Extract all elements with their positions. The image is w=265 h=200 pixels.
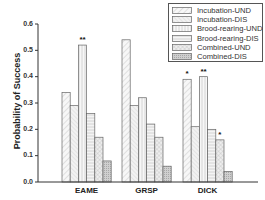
legend-swatch (172, 25, 192, 32)
bar-eame-combined-und (95, 137, 103, 182)
legend-item: Brood-rearing-DIS (172, 34, 259, 43)
y-tick-label: 0.3 (11, 99, 33, 106)
y-tick-label: 0.5 (11, 46, 33, 53)
bar-dick-incubation-und (183, 79, 191, 182)
bar-dick-brood-rearing-und (199, 77, 207, 182)
bar-eame-brood-rearing-und (78, 45, 86, 182)
y-tick-label: 0.6 (11, 20, 33, 27)
bar-grsp-combined-und (155, 137, 163, 182)
x-category-label: DICK (183, 186, 233, 195)
legend-item: Combined-DIS (172, 52, 259, 61)
bar-grsp-incubation-und (122, 40, 130, 182)
legend-label: Brood-rearing-DIS (197, 34, 259, 43)
significance-marker: ** (198, 67, 210, 76)
bar-dick-combined-dis (224, 171, 232, 182)
legend-swatch (172, 16, 192, 23)
bar-eame-combined-dis (103, 161, 111, 182)
legend-swatch (172, 53, 192, 60)
bar-eame-brood-rearing-dis (87, 114, 95, 182)
legend-label: Combined-UND (197, 43, 251, 52)
bar-eame-incubation-dis (70, 106, 78, 182)
bar-grsp-incubation-dis (130, 106, 138, 182)
x-category-label: GRSP (122, 186, 172, 195)
legend: Incubation-UNDIncubation-DISBrood-rearin… (168, 3, 263, 62)
legend-label: Brood-rearing-UND (197, 24, 262, 33)
legend-item: Incubation-DIS (172, 15, 259, 24)
legend-swatch (172, 44, 192, 51)
bar-chart: Probability of Success 0.00.10.20.30.40.… (0, 0, 265, 200)
y-tick-label: 0.0 (11, 178, 33, 185)
y-tick-label: 0.2 (11, 125, 33, 132)
significance-marker: * (181, 69, 193, 78)
bar-dick-incubation-dis (191, 127, 199, 182)
bar-grsp-brood-rearing-und (138, 98, 146, 182)
bar-dick-combined-und (216, 140, 224, 182)
significance-marker: * (214, 130, 226, 139)
legend-swatch (172, 35, 192, 42)
legend-item: Combined-UND (172, 43, 259, 52)
bar-grsp-combined-dis (163, 166, 171, 182)
bar-grsp-brood-rearing-dis (147, 124, 155, 182)
legend-swatch (172, 7, 192, 14)
x-category-label: EAME (62, 186, 112, 195)
legend-item: Brood-rearing-UND (172, 24, 259, 33)
legend-label: Combined-DIS (197, 52, 247, 61)
y-tick-label: 0.4 (11, 72, 33, 79)
legend-label: Incubation-DIS (197, 15, 247, 24)
legend-label: Incubation-UND (197, 6, 251, 15)
bar-eame-incubation-und (62, 92, 70, 182)
legend-item: Incubation-UND (172, 6, 259, 15)
significance-marker: ** (77, 35, 89, 44)
y-tick-label: 0.1 (11, 151, 33, 158)
